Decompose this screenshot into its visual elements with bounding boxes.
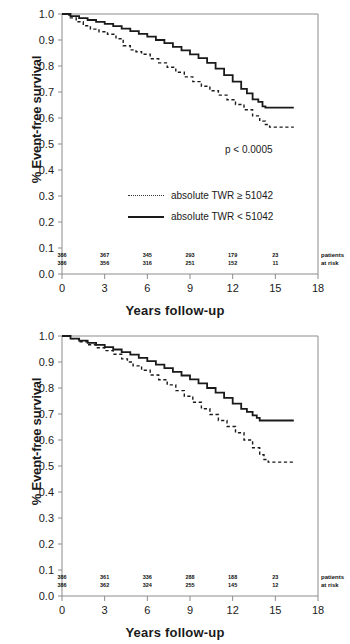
at-risk-count: 362 xyxy=(90,582,120,588)
at-risk-count: 288 xyxy=(175,574,205,580)
x-tick-label: 15 xyxy=(260,283,290,294)
legend-label: absolute TWR < 51042 xyxy=(171,211,273,222)
y-axis-label: % Event-free survival xyxy=(29,342,44,542)
x-axis-label: Years follow-up xyxy=(0,625,350,640)
x-tick-label: 15 xyxy=(260,605,290,616)
x-tick-label: 0 xyxy=(47,283,77,294)
p-value-annotation: p < 0.0005 xyxy=(225,144,273,155)
y-tick-label: 0.0 xyxy=(20,269,54,280)
at-risk-count: 23 xyxy=(260,574,290,580)
y-tick-label: 1.0 xyxy=(20,331,54,342)
legend-entry-2: absolute TWR < 51042 xyxy=(128,211,273,222)
legend-label: absolute TWR ≥ 51042 xyxy=(171,190,273,201)
x-tick-label: 0 xyxy=(47,605,77,616)
legend-line-swatch xyxy=(128,192,164,200)
at-risk-count: 386 xyxy=(47,574,77,580)
at-risk-count: 188 xyxy=(218,574,248,580)
at-risk-count: 255 xyxy=(175,582,205,588)
legend-entry-1: absolute TWR ≥ 51042 xyxy=(128,190,273,201)
x-tick-label: 18 xyxy=(303,283,333,294)
at-risk-count: 152 xyxy=(218,260,248,266)
at-risk-count: 386 xyxy=(47,260,77,266)
x-tick-label: 9 xyxy=(175,283,205,294)
at-risk-count: 316 xyxy=(132,260,162,266)
at-risk-count: 386 xyxy=(47,582,77,588)
x-tick-label: 9 xyxy=(175,605,205,616)
at-risk-count: 251 xyxy=(175,260,205,266)
at-risk-count: 386 xyxy=(47,252,77,258)
x-tick-label: 12 xyxy=(218,283,248,294)
at-risk-count: 336 xyxy=(132,574,162,580)
at-risk-count: 361 xyxy=(90,574,120,580)
at-risk-count: 23 xyxy=(260,252,290,258)
x-tick-label: 12 xyxy=(218,605,248,616)
at-risk-caption-line1: patients xyxy=(321,252,344,259)
at-risk-caption-line2: at risk xyxy=(321,582,339,589)
survival-curve xyxy=(62,14,294,108)
x-tick-label: 3 xyxy=(90,605,120,616)
survival-curve xyxy=(62,14,294,127)
survival-curve xyxy=(62,336,294,462)
x-tick-label: 6 xyxy=(132,605,162,616)
survival-curve xyxy=(62,336,294,421)
x-tick-label: 3 xyxy=(90,283,120,294)
at-risk-caption-line1: patients xyxy=(321,574,344,581)
at-risk-caption-line2: at risk xyxy=(321,260,339,267)
survival-chart-top-panel: 0.00.10.20.30.40.50.60.70.80.91.00369121… xyxy=(0,0,350,322)
y-axis-label: % Event-free survival xyxy=(29,20,44,220)
at-risk-count: 324 xyxy=(132,582,162,588)
y-tick-label: 1.0 xyxy=(20,9,54,20)
at-risk-count: 12 xyxy=(260,582,290,588)
at-risk-count: 367 xyxy=(90,252,120,258)
survival-chart-bottom-panel: 0.00.10.20.30.40.50.60.70.80.91.00369121… xyxy=(0,322,350,644)
x-axis-label: Years follow-up xyxy=(0,303,350,318)
legend-line-swatch xyxy=(128,213,164,221)
at-risk-count: 179 xyxy=(218,252,248,258)
x-tick-label: 6 xyxy=(132,283,162,294)
x-tick-label: 18 xyxy=(303,605,333,616)
at-risk-count: 11 xyxy=(260,260,290,266)
at-risk-count: 145 xyxy=(218,582,248,588)
at-risk-count: 356 xyxy=(90,260,120,266)
at-risk-count: 293 xyxy=(175,252,205,258)
at-risk-count: 345 xyxy=(132,252,162,258)
y-tick-label: 0.0 xyxy=(20,591,54,602)
